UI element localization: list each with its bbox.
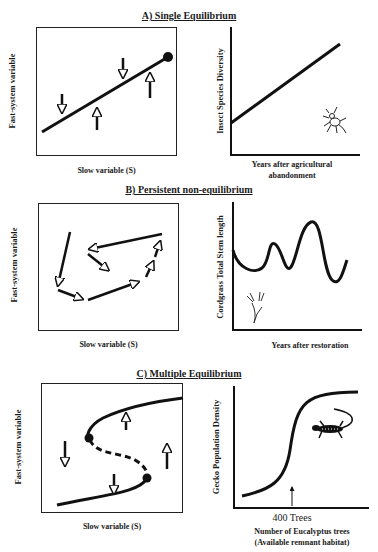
panel-c-phase-plot [57, 398, 183, 505]
insect-icon [323, 107, 346, 133]
panel-c-right-chart [234, 386, 369, 508]
cordgrass-icon [247, 292, 264, 323]
panel-b-right-chart [233, 202, 362, 330]
panel-a-phase-plot [42, 52, 173, 132]
panel-a-right-chart [231, 27, 360, 155]
panel-b-phase-plot [58, 232, 162, 300]
gecko-icon [312, 409, 352, 438]
diagram-graphics [0, 0, 378, 552]
